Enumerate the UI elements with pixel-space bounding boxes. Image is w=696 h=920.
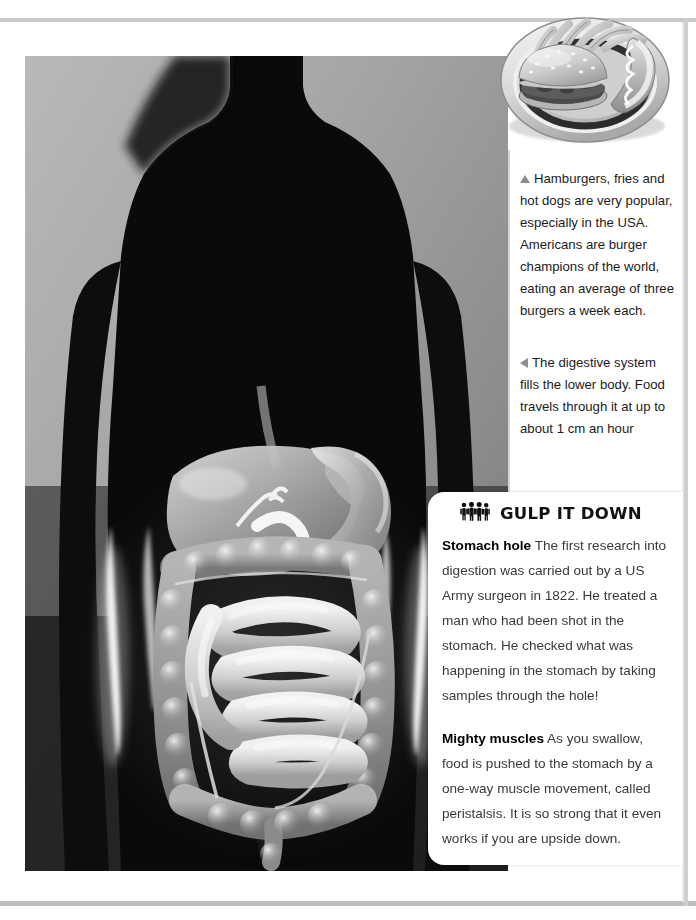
triangle-left-icon — [520, 358, 528, 368]
book-page: Hamburgers, fries and hot dogs are very … — [0, 0, 696, 920]
group-of-people-icon — [460, 502, 490, 525]
fact-paragraph-mighty-muscles: Mighty muscles As you swallow, food is p… — [442, 726, 671, 851]
column-divider-rule — [508, 150, 510, 498]
fact-box-gulp-it-down: GULP IT DOWN Stomach hole The first rese… — [428, 492, 683, 865]
plate-of-fast-food-photo — [487, 8, 683, 148]
caption-system-text: The digestive system fills the lower bod… — [520, 355, 665, 436]
caption-food-photo: Hamburgers, fries and hot dogs are very … — [520, 168, 678, 322]
page-frame-right-rule — [684, 18, 688, 906]
caption-food-text: Hamburgers, fries and hot dogs are very … — [520, 171, 674, 318]
page-frame-bottom-rule — [0, 901, 696, 906]
caption-digestive-system: The digestive system fills the lower bod… — [520, 352, 678, 440]
triangle-up-icon — [520, 175, 530, 183]
fact-paragraph-stomach-hole: Stomach hole The first research into dig… — [442, 533, 671, 708]
fact-box-title: GULP IT DOWN — [500, 504, 642, 523]
fact-body-stomach-hole: The first research into digestion was ca… — [442, 538, 666, 703]
fact-lead-mighty-muscles: Mighty muscles — [442, 731, 544, 746]
fact-body-mighty-muscles: As you swallow, food is pushed to the st… — [442, 731, 661, 846]
fact-lead-stomach-hole: Stomach hole — [442, 538, 531, 553]
fact-box-header: GULP IT DOWN — [460, 502, 671, 525]
